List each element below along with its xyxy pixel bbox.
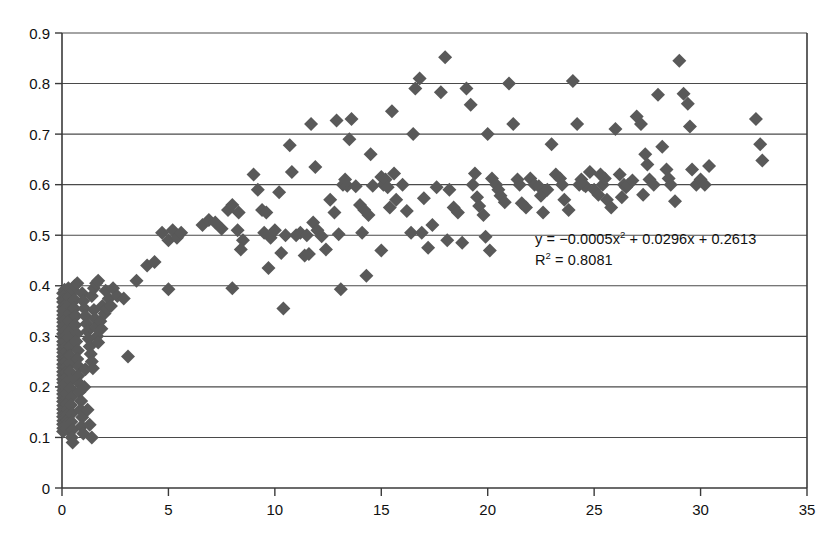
y-tick-label: 0.1 bbox=[29, 429, 50, 446]
data-point bbox=[396, 178, 410, 192]
regression-annotation: y = −0.0005x2 + 0.0296x + 0.2613 R2 = 0.… bbox=[535, 229, 756, 271]
data-point bbox=[438, 50, 452, 64]
y-tick-label: 0.3 bbox=[29, 328, 50, 345]
data-point bbox=[638, 147, 652, 161]
data-point bbox=[651, 88, 665, 102]
data-point bbox=[349, 179, 363, 193]
data-point bbox=[285, 165, 299, 179]
data-point bbox=[334, 282, 348, 296]
data-point bbox=[749, 112, 763, 126]
data-point bbox=[464, 98, 478, 112]
data-point bbox=[479, 230, 493, 244]
trendline-equation: y = −0.0005x2 + 0.0296x + 0.2613 bbox=[535, 229, 756, 250]
data-point bbox=[319, 242, 333, 256]
y-tick-label: 0 bbox=[42, 480, 50, 497]
data-point bbox=[121, 350, 135, 364]
x-axis-ticks bbox=[62, 488, 807, 496]
data-point bbox=[636, 188, 650, 202]
data-point bbox=[330, 113, 344, 127]
y-tick-label: 0.7 bbox=[29, 126, 50, 143]
data-point bbox=[415, 226, 429, 240]
data-point bbox=[355, 226, 369, 240]
data-point bbox=[685, 163, 699, 177]
data-point bbox=[506, 117, 520, 131]
data-point bbox=[417, 191, 431, 205]
data-point bbox=[640, 157, 654, 171]
data-point bbox=[455, 236, 469, 250]
data-point bbox=[421, 241, 435, 255]
y-tick-label: 0.9 bbox=[29, 25, 50, 42]
x-tick-label: 30 bbox=[692, 501, 709, 518]
data-point bbox=[364, 147, 378, 161]
data-point bbox=[332, 227, 346, 241]
data-point bbox=[359, 269, 373, 283]
data-point bbox=[655, 140, 669, 154]
data-point bbox=[545, 137, 559, 151]
data-point bbox=[536, 205, 550, 219]
y-tick-label: 0.5 bbox=[29, 227, 50, 244]
data-point bbox=[225, 281, 239, 295]
data-point bbox=[161, 282, 175, 296]
y-tick-label: 0.2 bbox=[29, 378, 50, 395]
data-point bbox=[374, 243, 388, 257]
data-point bbox=[425, 218, 439, 232]
x-tick-label: 35 bbox=[799, 501, 816, 518]
data-point bbox=[483, 243, 497, 257]
data-point bbox=[570, 117, 584, 131]
data-point bbox=[261, 261, 275, 275]
y-tick-labels: 00.10.20.30.40.50.60.70.80.9 bbox=[29, 25, 50, 497]
data-point bbox=[406, 127, 420, 141]
scatter-chart: 05101520253035 00.10.20.30.40.50.60.70.8… bbox=[0, 0, 829, 535]
data-point bbox=[283, 138, 297, 152]
data-point bbox=[274, 246, 288, 260]
x-tick-label: 15 bbox=[373, 501, 390, 518]
data-point bbox=[308, 160, 322, 174]
data-point bbox=[683, 120, 697, 134]
x-tick-label: 25 bbox=[586, 501, 603, 518]
y-tick-label: 0.8 bbox=[29, 75, 50, 92]
data-point bbox=[323, 193, 337, 207]
data-point bbox=[502, 77, 516, 91]
data-point bbox=[566, 74, 580, 88]
data-point bbox=[466, 178, 480, 192]
r-squared-label: R2 = 0.8081 bbox=[535, 250, 756, 271]
x-tick-label: 5 bbox=[164, 501, 172, 518]
data-point bbox=[344, 112, 358, 126]
y-tick-label: 0.4 bbox=[29, 277, 50, 294]
x-tick-label: 0 bbox=[58, 501, 66, 518]
data-point bbox=[668, 194, 682, 208]
x-tick-labels: 05101520253035 bbox=[58, 501, 816, 518]
data-point bbox=[755, 153, 769, 167]
data-point bbox=[247, 168, 261, 182]
data-point bbox=[672, 54, 686, 68]
data-point bbox=[327, 205, 341, 219]
y-tick-label: 0.6 bbox=[29, 176, 50, 193]
data-point bbox=[481, 127, 495, 141]
data-point bbox=[385, 104, 399, 118]
data-point bbox=[434, 85, 448, 99]
data-point bbox=[702, 159, 716, 173]
data-point bbox=[468, 167, 482, 181]
data-point bbox=[430, 180, 444, 194]
data-point bbox=[272, 185, 286, 199]
data-point bbox=[400, 204, 414, 218]
x-tick-label: 20 bbox=[479, 501, 496, 518]
data-point bbox=[753, 137, 767, 151]
data-point bbox=[304, 117, 318, 131]
x-tick-label: 10 bbox=[267, 501, 284, 518]
data-point bbox=[276, 302, 290, 316]
